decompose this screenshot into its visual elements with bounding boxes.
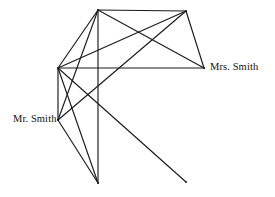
graph-vertex-top-left — [97, 9, 99, 11]
graph-vertex-top-right — [185, 10, 187, 12]
vertex-label-mrs-smith: Mrs. Smith — [210, 61, 258, 72]
graph-edge-mr-smith-to-bottom — [58, 120, 98, 183]
graph-vertex-mrs-smith — [203, 67, 205, 69]
graph-vertex-bottom — [97, 182, 99, 184]
vertex-label-mr-smith: Mr. Smith — [13, 113, 57, 124]
handshake-graph — [0, 0, 275, 197]
graph-vertex-bottom-right — [185, 181, 187, 183]
graph-edge-left-hub-to-bottom-right — [58, 68, 186, 182]
graph-edge-top-right-to-mr-smith — [58, 11, 186, 120]
graph-vertex-left-hub — [57, 67, 59, 69]
graph-edge-top-left-to-top-right — [98, 10, 186, 11]
graph-vertex-mr-smith — [57, 119, 59, 121]
edge-layer — [58, 10, 204, 183]
diagram-canvas: Mr. Smith Mrs. Smith — [0, 0, 275, 197]
